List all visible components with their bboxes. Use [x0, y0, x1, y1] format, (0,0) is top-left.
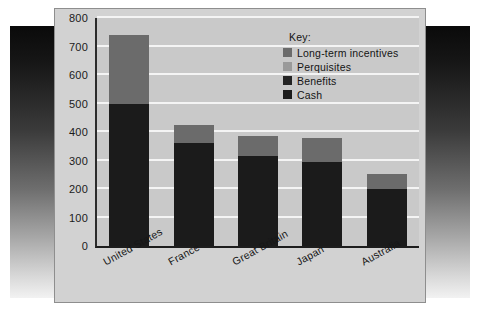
y-axis-tick-label: 600: [69, 69, 88, 81]
legend-item-label: Cash: [297, 89, 322, 101]
decorative-left-gradient-band: [10, 26, 56, 298]
legend-item-label: Long-term incentives: [297, 47, 398, 59]
legend-title: Key:: [289, 31, 423, 43]
chart-screenshot: 0100200300400500600700800 United StatesF…: [0, 0, 480, 325]
legend-item[interactable]: Long-term incentives: [283, 46, 423, 59]
legend-swatch-icon: [283, 76, 292, 85]
y-axis-tick-label: 300: [69, 155, 88, 167]
stacked-bar[interactable]: [367, 174, 407, 246]
y-axis-tick-label: 800: [69, 12, 88, 24]
bar-segment[interactable]: [238, 136, 278, 156]
legend-swatch-icon: [283, 90, 292, 99]
bar-segment[interactable]: [109, 35, 149, 103]
stacked-bar[interactable]: [302, 138, 342, 246]
bar-segment[interactable]: [109, 104, 149, 247]
legend-item-label: Perquisites: [297, 61, 351, 73]
bar-segment[interactable]: [174, 143, 214, 246]
bar-slot: [109, 18, 149, 246]
legend-items: Long-term incentivesPerquisitesBenefitsC…: [283, 46, 423, 101]
y-axis-tick-label: 500: [69, 98, 88, 110]
legend-item[interactable]: Perquisites: [283, 60, 423, 73]
chart-legend: Key: Long-term incentivesPerquisitesBene…: [283, 31, 423, 102]
x-axis-category-labels: United StatesFranceGreat BritainJapanAus…: [95, 249, 417, 299]
y-axis-tick-label: 700: [69, 41, 88, 53]
y-axis-tick-label: 400: [69, 126, 88, 138]
legend-swatch-icon: [283, 62, 292, 71]
stacked-bar[interactable]: [238, 136, 278, 246]
stacked-bar[interactable]: [174, 125, 214, 246]
bar-segment[interactable]: [367, 174, 407, 189]
bar-segment[interactable]: [174, 125, 214, 144]
legend-swatch-icon: [283, 48, 292, 57]
bar-segment[interactable]: [302, 162, 342, 246]
y-axis-tick-label: 0: [82, 240, 88, 252]
bar-segment[interactable]: [302, 138, 342, 162]
chart-panel: 0100200300400500600700800 United StatesF…: [54, 8, 426, 303]
bar-slot: [238, 18, 278, 246]
legend-item[interactable]: Cash: [283, 88, 423, 101]
bar-segment[interactable]: [367, 189, 407, 246]
stacked-bar[interactable]: [109, 35, 149, 246]
bar-slot: [174, 18, 214, 246]
legend-item-label: Benefits: [297, 75, 337, 87]
y-axis-tick-labels: 0100200300400500600700800: [55, 9, 91, 254]
legend-item[interactable]: Benefits: [283, 74, 423, 87]
y-axis-tick-label: 100: [69, 212, 88, 224]
y-axis-tick-label: 200: [69, 183, 88, 195]
decorative-right-gradient-band: [424, 26, 470, 298]
